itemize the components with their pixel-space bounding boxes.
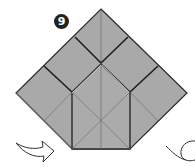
- origami-diagram: [0, 0, 195, 167]
- turn-over-arrow-icon: [166, 141, 195, 161]
- fold-arrow-icon: [16, 141, 54, 162]
- step-number-badge: 9: [54, 14, 69, 29]
